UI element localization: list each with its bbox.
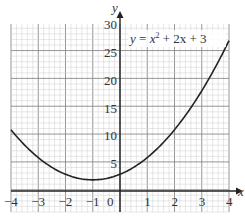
x-tick-label: −4 <box>4 194 18 209</box>
x-axis-label: x <box>237 184 244 199</box>
y-tick-label: 5 <box>111 156 118 171</box>
y-tick-label: 10 <box>104 128 117 143</box>
x-tick-label: −2 <box>59 194 73 209</box>
origin-label: 0 <box>107 194 114 209</box>
y-axis-label: y <box>110 0 118 15</box>
x-tick-label: 1 <box>144 194 151 209</box>
x-tick-label: −3 <box>31 194 45 209</box>
x-tick-label: −1 <box>86 194 100 209</box>
equation-label: y = x2 + 2x + 3 <box>128 30 226 47</box>
svg-text:y = x2 + 2x + 3: y = x2 + 2x + 3 <box>128 31 207 46</box>
parabola-chart: −4−3−2−1123451015202530 x y 0 y = x2 + 2… <box>0 0 245 222</box>
y-tick-label: 25 <box>104 45 117 60</box>
y-tick-label: 30 <box>104 17 117 32</box>
x-tick-label: 4 <box>226 194 233 209</box>
y-tick-label: 15 <box>104 101 117 116</box>
x-tick-label: 3 <box>199 194 206 209</box>
y-tick-label: 20 <box>104 73 117 88</box>
x-tick-label: 2 <box>172 194 179 209</box>
